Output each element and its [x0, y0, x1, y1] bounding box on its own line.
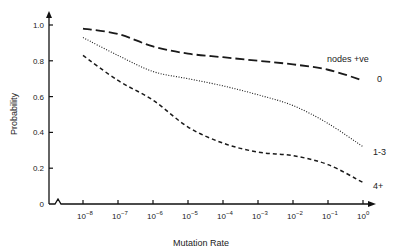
- y-tick-label: 0.2: [33, 164, 45, 173]
- x-tick-label: 10−3: [252, 210, 268, 221]
- y-tick-label: 1.0: [33, 21, 45, 30]
- y-axis-title: Probability: [9, 92, 19, 135]
- y-axis-arrow-icon: [46, 11, 52, 18]
- x-tick-label: 10−5: [182, 210, 198, 221]
- series-line-0: [83, 29, 363, 81]
- series-label-4+: 4+: [373, 181, 383, 191]
- series-line-1-3: [83, 38, 363, 147]
- x-tick-label: 10−6: [147, 210, 163, 221]
- x-axis-title: Mutation Rate: [173, 238, 229, 248]
- series-label-1-3: 1-3: [373, 147, 386, 157]
- series-line-4+: [83, 55, 363, 182]
- x-tick-label: 100: [357, 210, 370, 221]
- x-tick-label: 10−8: [77, 210, 93, 221]
- x-tick-label: 10−2: [287, 210, 303, 221]
- series-lines: 01-34+: [83, 29, 386, 191]
- x-axis-arrow-icon: [368, 201, 376, 207]
- y-tick-label: 0.6: [33, 93, 45, 102]
- x-axis-break: [49, 199, 370, 204]
- legend-title: nodes +ve: [327, 54, 369, 64]
- x-tick-label: 10−4: [217, 210, 233, 221]
- y-tick-label: 0.4: [33, 128, 45, 137]
- y-ticks: 00.20.40.60.81.0: [33, 21, 53, 209]
- y-tick-label: 0: [40, 200, 45, 209]
- series-label-0: 0: [377, 74, 382, 84]
- x-tick-label: 10−1: [322, 210, 338, 221]
- x-ticks: 10−810−710−610−510−410−310−210−1100: [77, 200, 370, 221]
- x-tick-label: 10−7: [112, 210, 128, 221]
- axes: [46, 11, 376, 207]
- line-chart: 00.20.40.60.81.0 10−810−710−610−510−410−…: [0, 0, 408, 250]
- y-tick-label: 0.8: [33, 57, 45, 66]
